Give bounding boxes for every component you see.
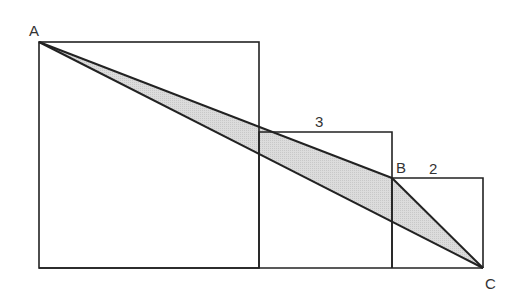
segment-ac <box>39 42 483 268</box>
side-label-medium: 3 <box>315 113 323 130</box>
segment-ab <box>39 42 392 178</box>
point-label-b: B <box>396 159 406 176</box>
side-label-small: 2 <box>429 160 437 177</box>
large-square <box>39 42 259 268</box>
point-label-a: A <box>29 22 39 39</box>
point-label-c: C <box>485 275 496 292</box>
geometry-diagram: A B C 3 2 <box>0 0 517 303</box>
